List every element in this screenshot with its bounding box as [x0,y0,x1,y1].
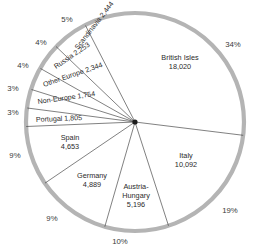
slice-label-portugal: Portugal 1,805 [36,114,83,124]
slice-label-british-isles: British Isles [161,53,199,62]
slice-label-austria-hungary-line1: Austria- [123,182,149,191]
slice-value-british-isles: 18,020 [169,62,191,71]
percent-label-portugal: 3% [7,108,18,117]
slice-value-spain: 4,653 [61,142,79,151]
percent-label-other-europe: 4% [17,61,28,70]
percent-label-spain: 9% [9,151,20,160]
slice-label-italy: Italy [179,151,193,160]
percent-label-germany: 9% [46,214,57,223]
percent-label-austria-hungary: 10% [112,237,128,246]
slice-label-austria-hungary-line2: Hungary [122,191,150,200]
slice-label-non-europe: Non-Europe 1,754 [37,90,96,106]
slice-label-germany: Germany [77,171,107,180]
percent-label-italy: 19% [222,206,238,215]
slice-label-spain: Spain [61,133,80,142]
percent-label-non-europe: 3% [7,84,18,93]
slice-value-italy: 10,092 [175,160,197,169]
percent-label-scandinavia: 5% [61,15,72,24]
slice-value-austria-hungary: 5,196 [127,200,145,209]
pie-chart-figure: British Isles 18,020 Italy 10,092 Austri… [0,0,260,250]
divider-austria-hungary-germany [105,122,135,227]
pie-chart-canvas: British Isles 18,020 Italy 10,092 Austri… [0,0,260,250]
divider-italy-austria-hungary [135,122,169,226]
percent-label-british-isles: 34% [225,40,241,49]
divider-british-isles-italy [135,122,243,135]
percent-label-russia: 4% [35,38,46,47]
divider-scandinavia-british-isles [86,26,136,123]
slice-value-germany: 4,889 [83,180,101,189]
pie-center-hub [132,119,137,124]
